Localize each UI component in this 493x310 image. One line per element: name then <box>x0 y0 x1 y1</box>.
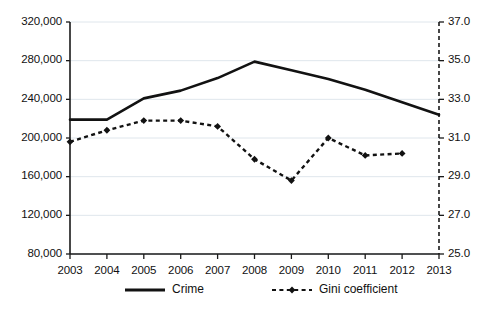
y-axis-left-tick-label: 120,000 <box>4 208 62 220</box>
legend-marks <box>125 287 312 294</box>
y-axis-right-tick-label: 37.0 <box>448 15 492 27</box>
y-axis-right-tick-label: 29.0 <box>448 169 492 181</box>
x-axis-tick-label: 2009 <box>271 264 311 276</box>
x-axis-tick-label: 2008 <box>235 264 275 276</box>
y-axis-left-tick-label: 80,000 <box>4 247 62 259</box>
y-axis-left-tick-label: 280,000 <box>4 53 62 65</box>
series-line-crime <box>70 62 439 120</box>
y-axis-right-tick-label: 27.0 <box>448 208 492 220</box>
series-group <box>67 62 439 184</box>
x-axis-tick-label: 2006 <box>161 264 201 276</box>
x-axis-tick-label: 2005 <box>124 264 164 276</box>
y-axis-right-tick-label: 25.0 <box>448 247 492 259</box>
x-axis-tick-label: 2004 <box>87 264 127 276</box>
bottom-axis <box>70 254 439 259</box>
y-axis-left-tick-label: 240,000 <box>4 92 62 104</box>
y-axis-left-tick-label: 320,000 <box>4 15 62 27</box>
y-axis-left-tick-label: 200,000 <box>4 131 62 143</box>
left-axis <box>66 22 70 254</box>
data-point-marker <box>399 150 406 157</box>
y-axis-right-tick-label: 35.0 <box>448 53 492 65</box>
data-point-marker <box>67 138 74 145</box>
x-axis-tick-label: 2010 <box>308 264 348 276</box>
gridlines-group <box>70 22 439 254</box>
x-axis-tick-label: 2013 <box>419 264 459 276</box>
legend-item-gini-coefficient[interactable]: Gini coefficient <box>319 282 398 296</box>
x-axis-tick-label: 2007 <box>198 264 238 276</box>
x-axis-tick-label: 2011 <box>345 264 385 276</box>
x-axis-tick-label: 2003 <box>50 264 90 276</box>
data-point-marker <box>362 152 369 159</box>
legend-item-crime[interactable]: Crime <box>172 282 204 296</box>
data-point-marker <box>104 127 111 134</box>
data-point-marker <box>177 117 184 124</box>
series-line-gini-coefficient <box>70 121 402 181</box>
chart-container: 320,000280,000240,000200,000160,000120,0… <box>0 0 493 310</box>
right-axis <box>439 22 444 254</box>
x-axis-tick-label: 2012 <box>382 264 422 276</box>
y-axis-right-tick-label: 33.0 <box>448 92 492 104</box>
data-point-marker <box>214 123 221 130</box>
y-axis-left-tick-label: 160,000 <box>4 169 62 181</box>
y-axis-right-tick-label: 31.0 <box>448 131 492 143</box>
data-point-marker <box>140 117 147 124</box>
